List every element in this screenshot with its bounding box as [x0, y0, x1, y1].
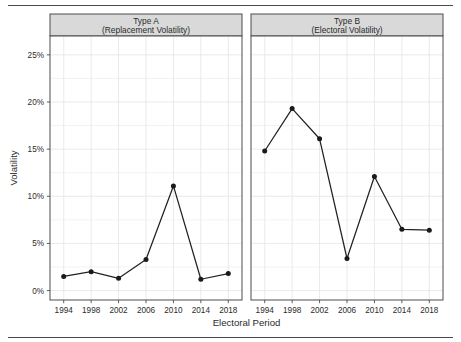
data-point-2002 — [317, 136, 322, 141]
data-point-1998 — [89, 269, 94, 274]
data-point-2002 — [116, 276, 121, 281]
y-axis-title: Volatility — [8, 150, 19, 185]
y-tick-label-15%: 15% — [28, 145, 44, 154]
y-tick-label-0%: 0% — [32, 287, 44, 296]
facet-panel-2: Type B(Electoral Volatility)199419982002… — [251, 14, 443, 315]
data-point-1998 — [290, 106, 295, 111]
y-tick-label-20%: 20% — [28, 98, 44, 107]
x-tick-label-1994: 1994 — [256, 306, 275, 315]
x-tick-label-2018: 2018 — [219, 306, 238, 315]
data-point-2010 — [171, 183, 176, 188]
x-tick-label-2014: 2014 — [192, 306, 211, 315]
x-tick-label-2010: 2010 — [365, 306, 384, 315]
x-tick-label-2002: 2002 — [109, 306, 128, 315]
y-tick-label-10%: 10% — [28, 192, 44, 201]
facet-panel-1: Type A(Replacement Volatility)1994199820… — [50, 14, 242, 315]
data-point-2018 — [226, 271, 231, 276]
x-tick-label-2010: 2010 — [164, 306, 183, 315]
x-axis-title: Electoral Period — [213, 317, 281, 328]
x-tick-label-2006: 2006 — [338, 306, 357, 315]
top-divider — [8, 5, 453, 6]
data-point-1994 — [61, 274, 66, 279]
x-tick-label-2006: 2006 — [137, 306, 156, 315]
data-point-2010 — [372, 174, 377, 179]
faceted-line-chart: Type A(Replacement Volatility)1994199820… — [0, 0, 461, 342]
data-point-2018 — [427, 228, 432, 233]
x-tick-label-2002: 2002 — [310, 306, 329, 315]
facet-strip-subtitle-2: (Electoral Volatility) — [311, 25, 382, 35]
y-tick-label-5%: 5% — [32, 239, 44, 248]
data-point-1994 — [262, 149, 267, 154]
data-point-2014 — [198, 277, 203, 282]
y-tick-label-25%: 25% — [28, 51, 44, 60]
data-point-2006 — [345, 256, 350, 261]
data-point-2014 — [399, 227, 404, 232]
x-tick-label-1994: 1994 — [55, 306, 74, 315]
data-point-2006 — [144, 257, 149, 262]
facet-strip-subtitle-1: (Replacement Volatility) — [102, 25, 190, 35]
x-tick-label-1998: 1998 — [82, 306, 101, 315]
x-tick-label-1998: 1998 — [283, 306, 302, 315]
x-tick-label-2018: 2018 — [420, 306, 439, 315]
bottom-divider — [8, 337, 453, 338]
chart-figure: Type A(Replacement Volatility)1994199820… — [0, 0, 461, 342]
x-tick-label-2014: 2014 — [393, 306, 412, 315]
